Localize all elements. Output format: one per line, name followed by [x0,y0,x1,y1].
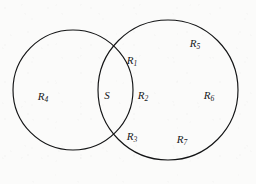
region-label-r7-subscript: 7 [183,138,187,147]
right-circle [98,20,238,160]
region-label-r3-subscript: 3 [132,135,137,144]
region-label-r4: R4 [37,90,49,104]
venn-diagram-canvas: R1 S R2 R3 R4 R5 R6 R7 [0,0,256,184]
region-label-r6: R6 [203,89,215,103]
region-label-r2-subscript: 2 [144,94,148,103]
region-label-r2: R2 [137,89,149,103]
region-label-r1-subscript: 1 [133,59,137,68]
region-label-r4-subscript: 4 [44,95,48,104]
region-label-r5: R5 [189,37,201,51]
region-label-r3: R3 [126,130,138,144]
region-label-r6-subscript: 6 [210,94,214,103]
region-label-r7: R7 [176,133,188,147]
left-circle [13,30,133,150]
region-label-r5-subscript: 5 [196,42,200,51]
region-labels: R1 S R2 R3 R4 R5 R6 R7 [37,37,215,147]
venn-diagram: R1 S R2 R3 R4 R5 R6 R7 [0,0,256,184]
region-label-s-base: S [104,89,110,101]
region-label-s: S [104,89,110,101]
